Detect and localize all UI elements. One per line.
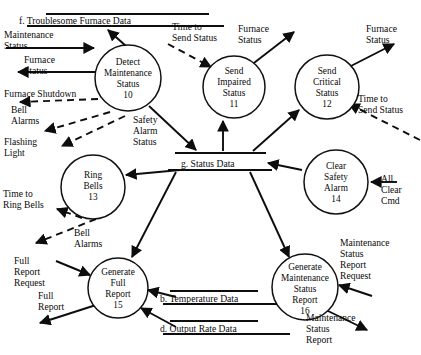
flow-label-furnace-status-11: Furnace Status [238, 23, 269, 45]
flow-safety-alarm-status [126, 170, 180, 175]
svg-text:Status: Status [366, 34, 390, 45]
svg-text:Request: Request [340, 270, 371, 281]
flow-status-data-to-p15 [132, 172, 176, 257]
diagram-canvas: f. Troublesome Furnace Data g. Status Da… [0, 0, 421, 355]
process-16-line-1: Maintenance [281, 273, 329, 283]
flow-label-bell-alarms-13: Bell Alarms [74, 227, 103, 249]
svg-text:Status: Status [4, 40, 28, 51]
svg-text:Status: Status [238, 34, 262, 45]
svg-text:Time to: Time to [3, 188, 33, 199]
flow-label-flashing-light: Flashing Light [4, 136, 37, 158]
process-10-line-2: Status [117, 79, 140, 89]
process-12-line-2: Status [316, 88, 339, 98]
process-11-line-1: Impaired [217, 77, 251, 87]
svg-text:Full: Full [14, 255, 30, 266]
process-10-line-0: Detect [116, 57, 141, 67]
process-12-line-1: Critical [313, 77, 341, 87]
svg-text:Maintenance: Maintenance [340, 237, 390, 248]
process-10-line-1: Maintenance [104, 68, 152, 78]
svg-text:Maintenance: Maintenance [306, 312, 356, 323]
process-15-number: 15 [113, 300, 123, 310]
data-flow-diagram: f. Troublesome Furnace Data g. Status Da… [0, 0, 421, 355]
svg-text:Safety: Safety [133, 114, 158, 125]
process-15-line-1: Full [111, 278, 126, 288]
svg-text:Status: Status [340, 248, 364, 259]
flow-output-rate-data-to-p15 [141, 308, 176, 327]
process-14-line-1: Safety [324, 172, 348, 182]
process-16[interactable]: Generate Maintenance Status Report 16 [272, 254, 338, 320]
process-11-line-2: Status [223, 88, 246, 98]
svg-text:Light: Light [4, 147, 25, 158]
flow-label-furnace-status-12: Furnace Status [366, 23, 397, 45]
process-16-line-3: Report [292, 295, 318, 305]
flow-label-maintenance-status-report-out: Maintenance Status Report [306, 312, 356, 345]
flow-p14-to-status-data [268, 163, 302, 170]
flow-label-safety-alarm-status: Safety Alarm Status [133, 114, 158, 147]
svg-text:Alarm: Alarm [133, 125, 158, 136]
process-10-number: 10 [123, 90, 133, 100]
flow-time-to-send-status-11 [168, 44, 211, 67]
svg-text:Status: Status [133, 136, 157, 147]
flow-status-data-to-p12 [253, 110, 299, 151]
flow-status-data-to-p16 [250, 172, 289, 257]
svg-text:Time to: Time to [358, 93, 388, 104]
flow-label-bell-alarms-left: Bell Alarms [11, 104, 40, 126]
data-store-g-label: g. Status Data [181, 158, 235, 169]
process-15-line-2: Report [105, 289, 131, 299]
flow-furnace-shutdown [20, 99, 98, 102]
svg-text:Maintenance: Maintenance [4, 29, 54, 40]
flow-label-all-clear-cmd: All Clear Cmd [381, 173, 403, 206]
data-store-f-label: f. Troublesome Furnace Data [19, 15, 132, 26]
process-13[interactable]: Ring Bells 13 [61, 155, 125, 219]
flow-full-report-request [56, 261, 90, 275]
process-10[interactable]: Detect Maintenance Status 10 [95, 45, 161, 111]
svg-text:Ring Bells: Ring Bells [3, 199, 44, 210]
process-13-number: 13 [88, 192, 98, 202]
svg-text:Send Status: Send Status [172, 32, 217, 43]
flow-label-maintenance-status-report-request: Maintenance Status Report Request [340, 237, 390, 281]
svg-text:Report: Report [306, 334, 332, 345]
svg-text:Alarms: Alarms [11, 115, 40, 126]
flow-label-full-report-request: Full Report Request [14, 255, 45, 288]
process-11[interactable]: Send Impaired Status 11 [203, 56, 265, 118]
process-12-number: 12 [322, 99, 332, 109]
svg-text:Time to: Time to [172, 21, 202, 32]
data-store-g: g. Status Data [168, 153, 272, 170]
data-store-b-label: b. Temperature Data [160, 293, 239, 304]
process-14-line-2: Alarm [324, 183, 349, 193]
flow-troublesome-furnace-data [108, 30, 126, 46]
process-12-line-0: Send [318, 66, 337, 76]
svg-text:Status: Status [306, 323, 330, 334]
svg-text:Furnace Shutdown: Furnace Shutdown [4, 88, 76, 99]
process-12[interactable]: Send Critical Status 12 [295, 55, 359, 119]
process-13-line-1: Bells [83, 181, 102, 191]
svg-text:Bell: Bell [74, 227, 90, 238]
svg-text:Furnace: Furnace [24, 54, 55, 65]
process-15-line-0: Generate [101, 267, 135, 277]
svg-text:Request: Request [14, 277, 45, 288]
svg-text:Bell: Bell [11, 104, 27, 115]
flow-maintenance-status-report-request [339, 285, 372, 296]
svg-text:Alarms: Alarms [74, 238, 103, 249]
process-14-number: 14 [331, 194, 341, 204]
svg-text:Clear: Clear [381, 184, 403, 195]
process-14-line-0: Clear [326, 161, 347, 171]
svg-text:Status: Status [24, 65, 48, 76]
svg-text:Report: Report [14, 266, 40, 277]
svg-text:Flashing: Flashing [4, 136, 37, 147]
data-store-d: d. Output Rate Data [160, 321, 290, 334]
flow-label-furnace-shutdown: Furnace Shutdown [4, 88, 76, 99]
svg-text:Report: Report [38, 301, 64, 312]
svg-text:Full: Full [38, 290, 54, 301]
flow-flashing-light [62, 116, 125, 146]
process-11-line-0: Send [225, 66, 244, 76]
flow-furnace-status-12 [347, 44, 394, 68]
process-15[interactable]: Generate Full Report 15 [88, 258, 148, 318]
svg-text:Report: Report [340, 259, 366, 270]
process-14[interactable]: Clear Safety Alarm 14 [304, 150, 368, 214]
flow-label-full-report-out: Full Report [38, 290, 64, 312]
svg-text:Furnace: Furnace [366, 23, 397, 34]
data-store-b: b. Temperature Data [160, 291, 290, 304]
flow-label-time-to-send-status-11: Time to Send Status [172, 21, 217, 43]
process-11-number: 11 [230, 99, 239, 109]
